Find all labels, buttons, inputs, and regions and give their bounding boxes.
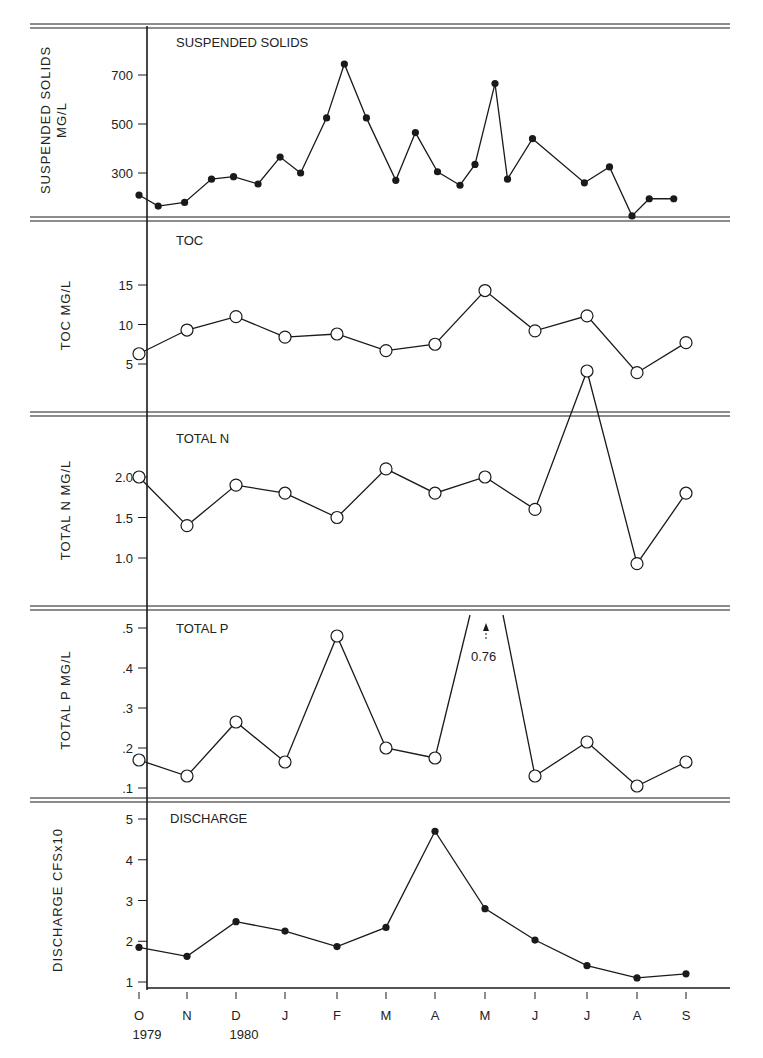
data-point bbox=[333, 943, 340, 950]
data-point bbox=[181, 770, 193, 782]
data-point bbox=[481, 905, 488, 912]
data-point bbox=[208, 176, 215, 183]
x-tick-label: J bbox=[584, 1008, 591, 1023]
year-label: 1980 bbox=[230, 1027, 259, 1042]
discharge-panel: DISCHARGEDISCHARGE CFSx1012345 bbox=[50, 811, 690, 990]
data-point bbox=[670, 195, 677, 202]
data-point bbox=[429, 487, 441, 499]
y-tick-label: .1 bbox=[122, 781, 133, 796]
y-tick-label: 2.0 bbox=[115, 470, 133, 485]
data-point bbox=[581, 365, 593, 377]
y-tick-label: 300 bbox=[111, 166, 133, 181]
data-point bbox=[429, 338, 441, 350]
y-tick-label: .3 bbox=[122, 701, 133, 716]
x-tick-label: J bbox=[282, 1008, 289, 1023]
year-label: 1979 bbox=[133, 1027, 162, 1042]
y-tick-label: 3 bbox=[126, 894, 133, 909]
data-point bbox=[279, 756, 291, 768]
x-tick-label: M bbox=[381, 1008, 392, 1023]
data-point bbox=[491, 80, 498, 87]
data-point bbox=[341, 60, 348, 67]
data-point bbox=[232, 918, 239, 925]
data-point bbox=[380, 742, 392, 754]
y-tick-label: 1 bbox=[126, 975, 133, 990]
x-tick-label: D bbox=[231, 1008, 240, 1023]
data-point bbox=[680, 756, 692, 768]
data-point bbox=[331, 512, 343, 524]
toc-panel: TOCTOC MG/L51015 bbox=[58, 233, 692, 379]
data-point bbox=[133, 754, 145, 766]
data-point bbox=[254, 180, 261, 187]
data-point bbox=[583, 962, 590, 969]
data-point bbox=[181, 199, 188, 206]
total-n-y-label: TOTAL N MG/L bbox=[58, 460, 73, 561]
data-point bbox=[380, 463, 392, 475]
data-point bbox=[230, 479, 242, 491]
discharge-title: DISCHARGE bbox=[170, 811, 248, 826]
data-point bbox=[633, 974, 640, 981]
data-point bbox=[297, 169, 304, 176]
discharge-y-label: DISCHARGE CFSx10 bbox=[50, 828, 65, 972]
total-p-title: TOTAL P bbox=[176, 621, 229, 636]
data-point bbox=[181, 324, 193, 336]
data-point bbox=[529, 770, 541, 782]
month-x-axis: ONDJFMAMJJAS19791980 bbox=[133, 988, 730, 1042]
data-point bbox=[631, 367, 643, 379]
x-tick-label: S bbox=[682, 1008, 691, 1023]
toc-title: TOC bbox=[176, 233, 203, 248]
data-point bbox=[631, 780, 643, 792]
data-point bbox=[135, 944, 142, 951]
data-point bbox=[133, 348, 145, 360]
y-tick-label: 1.5 bbox=[115, 511, 133, 526]
water-quality-figure: SUSPENDED SOLIDSSUSPENDED SOLIDSMG/L3005… bbox=[0, 0, 763, 1058]
data-point bbox=[135, 191, 142, 198]
x-tick-label: J bbox=[532, 1008, 539, 1023]
data-point bbox=[331, 328, 343, 340]
data-point bbox=[155, 202, 162, 209]
y-tick-label: 4 bbox=[126, 853, 133, 868]
y-tick-label: 5 bbox=[126, 812, 133, 827]
suspended-solids-y-label: SUSPENDED SOLIDSMG/L bbox=[38, 46, 69, 194]
x-tick-label: N bbox=[182, 1008, 191, 1023]
x-tick-label: A bbox=[431, 1008, 440, 1023]
data-point bbox=[392, 177, 399, 184]
data-point bbox=[363, 114, 370, 121]
y-tick-label: 5 bbox=[126, 357, 133, 372]
data-point bbox=[504, 176, 511, 183]
x-tick-label: O bbox=[134, 1008, 144, 1023]
data-point bbox=[382, 924, 389, 931]
suspended-solids-title: SUSPENDED SOLIDS bbox=[176, 35, 309, 50]
data-point bbox=[230, 716, 242, 728]
data-point bbox=[479, 285, 491, 297]
data-point bbox=[529, 135, 536, 142]
annotation-0-76: 0.76 bbox=[471, 649, 496, 664]
data-point bbox=[323, 114, 330, 121]
suspended-solids-panel: SUSPENDED SOLIDSSUSPENDED SOLIDSMG/L3005… bbox=[38, 35, 677, 219]
total-p-panel: TOTAL PTOTAL P MG/L.1.2.3.4.50.76 bbox=[58, 615, 692, 796]
y-tick-label: 2 bbox=[126, 934, 133, 949]
data-point bbox=[230, 173, 237, 180]
data-point bbox=[479, 471, 491, 483]
data-point bbox=[646, 195, 653, 202]
data-point bbox=[581, 179, 588, 186]
data-point bbox=[429, 752, 441, 764]
data-point bbox=[471, 161, 478, 168]
data-point bbox=[230, 311, 242, 323]
y-tick-label: 15 bbox=[119, 278, 133, 293]
total-p-y-label: TOTAL P MG/L bbox=[58, 650, 73, 750]
data-point bbox=[631, 558, 643, 570]
data-point bbox=[279, 487, 291, 499]
y-tick-label: .2 bbox=[122, 741, 133, 756]
panel-separators bbox=[30, 24, 730, 802]
total-n-panel: TOTAL NTOTAL N MG/L1.01.52.0 bbox=[58, 365, 692, 570]
data-point bbox=[531, 936, 538, 943]
y-tick-label: .5 bbox=[122, 621, 133, 636]
data-point bbox=[529, 325, 541, 337]
data-point bbox=[581, 310, 593, 322]
data-point bbox=[682, 970, 689, 977]
data-point bbox=[133, 471, 145, 483]
data-point bbox=[431, 828, 438, 835]
y-tick-label: 10 bbox=[119, 318, 133, 333]
data-point bbox=[412, 129, 419, 136]
data-point bbox=[581, 736, 593, 748]
